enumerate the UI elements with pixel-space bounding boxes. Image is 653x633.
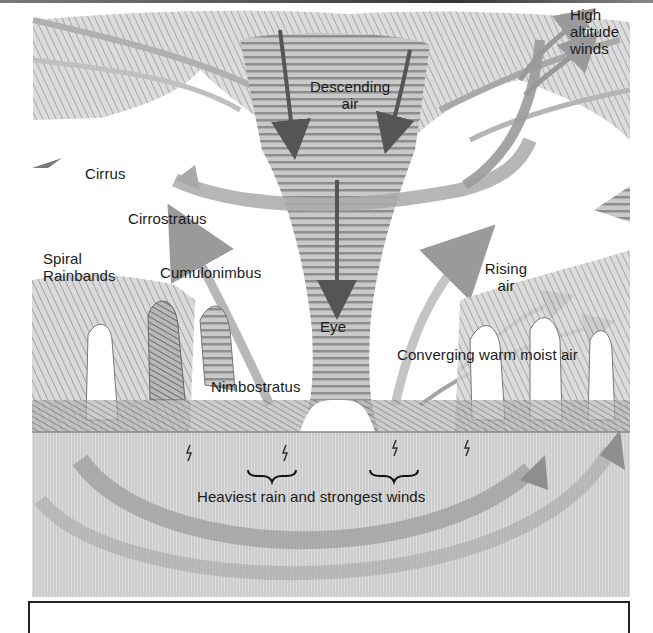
label-converging-air: Converging warm moist air [397,346,578,363]
label-rising-air: Rising air [485,260,527,294]
label-descending-air: Descending air [310,78,390,112]
caption-box [28,601,630,633]
hurricane-diagram: High altitude winds Descending air Cirru… [0,0,653,605]
label-eye: Eye [320,318,346,335]
label-spiral-rainbands: Spiral Rainbands [43,250,116,284]
label-nimbostratus: Nimbostratus [211,378,301,395]
label-heaviest-rain: Heaviest rain and strongest winds [197,488,425,505]
label-cirrus: Cirrus [85,165,126,182]
label-cirrostratus: Cirrostratus [128,210,207,227]
label-high-altitude-winds: High altitude winds [570,6,619,57]
cirrus-wisp-left [32,158,62,168]
cirrus-wisp-right [594,186,630,222]
label-cumulonimbus: Cumulonimbus [160,264,261,281]
